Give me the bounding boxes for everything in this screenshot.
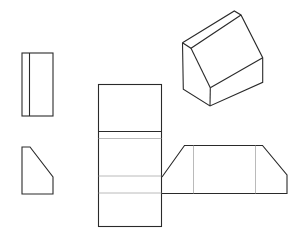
iso-silhouette (183, 11, 263, 106)
net-vertical-outline (99, 85, 162, 227)
net-horizontal-strip (162, 146, 287, 194)
net-horizontal-outline (162, 146, 287, 194)
net-vertical-strip (99, 85, 162, 227)
isometric-view (183, 11, 263, 106)
iso-top-ridge (183, 15, 242, 48)
iso-lower-edge (210, 58, 262, 88)
top-view (22, 53, 53, 116)
top-view-outline (22, 53, 53, 116)
side-view (22, 147, 53, 194)
iso-slope-edge (191, 48, 210, 87)
diagram-canvas (0, 0, 307, 241)
side-view-outline (22, 147, 53, 194)
